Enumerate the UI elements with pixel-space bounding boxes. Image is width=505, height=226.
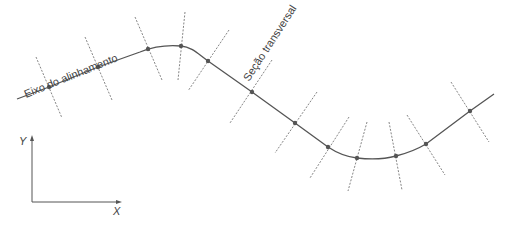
cross-sections <box>36 12 489 191</box>
cross-section-label: Seção transversal <box>241 3 299 83</box>
alignment-diagram: Eixo do alinhamento Seção transversal Y … <box>0 0 505 226</box>
station-point <box>394 154 398 158</box>
station-point <box>293 121 297 125</box>
station-point <box>206 59 210 63</box>
station-point <box>424 142 428 146</box>
x-axis-label: X <box>112 205 121 217</box>
y-axis-label: Y <box>19 135 27 147</box>
y-axis-arrow-icon <box>30 135 34 141</box>
station-point <box>179 44 183 48</box>
x-axis-arrow-icon <box>116 200 122 204</box>
station-point <box>355 156 359 160</box>
coordinate-axes: Y X <box>19 135 122 217</box>
station-point <box>146 47 150 51</box>
station-point <box>250 90 254 94</box>
station-point <box>468 109 472 113</box>
station-point <box>326 145 330 149</box>
